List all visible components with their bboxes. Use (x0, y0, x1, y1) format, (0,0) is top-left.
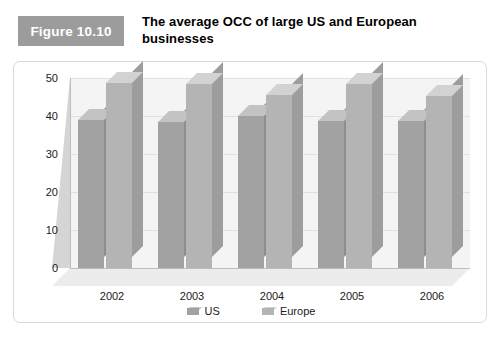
y-axis-line (70, 78, 71, 269)
bar-front-face (238, 116, 264, 268)
x-axis-line (70, 268, 470, 269)
bar-side-face (292, 73, 303, 257)
bar-front-face (346, 84, 372, 268)
figure-title: The average OCC of large US and European… (142, 14, 486, 47)
y-tick-label: 20 (32, 186, 58, 198)
legend-swatch-icon (187, 307, 199, 315)
legend-swatch-icon (262, 307, 274, 315)
y-axis-tick-labels: 01020304050 (24, 62, 58, 324)
chart-frame: 01020304050 39.048.838.548.540.145.538.7… (13, 61, 487, 323)
legend-label: Europe (280, 305, 315, 317)
bar-front-face (186, 84, 212, 268)
y-tick-label: 30 (32, 148, 58, 160)
bar-front-face (266, 95, 292, 268)
y-tick-label: 0 (32, 262, 58, 274)
bar-us-2002 (78, 120, 104, 268)
bar-us-2005 (318, 121, 344, 268)
y-tick-label: 10 (32, 224, 58, 236)
bar-europe-2002 (106, 83, 132, 268)
bar-us-2006 (398, 121, 424, 268)
x-tick-label-2006: 2006 (420, 290, 444, 302)
bar-europe-2004 (266, 95, 292, 268)
chart-legend: USEurope (14, 305, 488, 317)
bar-europe-2003 (186, 84, 212, 268)
bar-europe-2005 (346, 84, 372, 268)
bar-front-face (318, 121, 344, 268)
chart-plot-area: 01020304050 39.048.838.548.540.145.538.7… (14, 62, 488, 324)
figure-number-badge: Figure 10.10 (18, 16, 124, 46)
figure-header: Figure 10.10 The average OCC of large US… (18, 14, 484, 56)
x-tick-label-2005: 2005 (340, 290, 364, 302)
x-tick-label-2002: 2002 (100, 290, 124, 302)
legend-item-us[interactable]: US (187, 305, 220, 317)
bar-front-face (398, 121, 424, 268)
bar-side-face (452, 74, 463, 257)
bar-us-2003 (158, 122, 184, 268)
legend-item-europe[interactable]: Europe (262, 305, 315, 317)
bar-us-2004 (238, 116, 264, 268)
legend-label: US (205, 305, 220, 317)
bar-front-face (426, 96, 452, 268)
x-tick-label-2004: 2004 (260, 290, 284, 302)
bar-front-face (106, 83, 132, 268)
y-tick-label: 50 (32, 72, 58, 84)
bar-front-face (78, 120, 104, 268)
figure-card: Figure 10.10 The average OCC of large US… (0, 0, 501, 339)
bar-side-face (212, 62, 223, 257)
x-tick-label-2003: 2003 (180, 290, 204, 302)
y-tick-label: 40 (32, 110, 58, 122)
bar-europe-2006 (426, 96, 452, 268)
bar-front-face (158, 122, 184, 268)
plot-floor-3d (52, 268, 470, 286)
bar-side-face (372, 62, 383, 257)
bar-side-face (132, 61, 143, 257)
